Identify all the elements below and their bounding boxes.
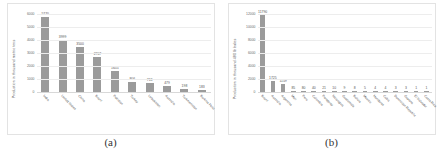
x-tick-label: Argentina [278,93,288,133]
x-tick-label: El Salvador [411,93,421,133]
bar-value-label: 80 [302,86,306,90]
chart-a-y-axis-title-text: Production in thousand metric tons [13,40,17,99]
x-tick-label: Brazil [258,93,268,133]
y-tick-label: 4000 [248,64,256,68]
chart-a-x-tick-labels: IndiaUnited StatesChinaBrazilPakistanTur… [37,93,211,133]
x-tick-label: India [37,93,54,133]
y-tick-label: 4000 [27,38,35,42]
chart-b-plot-area: 11790172511598580402110985443311 [258,14,432,92]
bar[interactable] [281,84,286,92]
y-tick-label: 8000 [248,38,256,42]
bar-value-label: 1 [425,86,427,90]
x-tick-label: Turkey [124,93,141,133]
bar[interactable] [111,71,119,93]
gridline [258,40,432,41]
bar-value-label: 85 [291,86,295,90]
x-tick-label-text: Mali [290,94,297,101]
x-tick-label: Australia [268,93,278,133]
bar-value-label: 40 [312,86,316,90]
caption-b: (b) [325,136,338,148]
x-tick-label-text: Burkina Faso [199,94,216,111]
x-tick-label: Pakistan [106,93,123,133]
x-tick-label-text: Peru [301,94,309,102]
figure-two-panel-bar-charts: Production in thousand metric tons 01000… [0,0,443,164]
x-tick-label: Dominican Republic [391,93,401,133]
x-tick-label-text: Australia [164,94,176,106]
x-tick-label: Peru [298,93,308,133]
gridline [258,53,432,54]
y-tick-label: 10000 [246,25,255,29]
bar-value-label: 183 [199,85,205,89]
y-tick-label: 0 [254,90,256,94]
x-tick-label: Mexico [360,93,370,133]
caption-a: (a) [104,136,116,148]
bar-value-label: 479 [164,81,170,85]
x-tick-label: Mali [288,93,298,133]
x-tick-label: Costa Rica [421,93,431,133]
bar-value-label: 3 [405,86,407,90]
bar[interactable] [41,17,49,92]
bar-value-label: 3 [395,86,397,90]
x-tick-label-text: Pakistan [112,94,124,106]
y-tick-label: 6000 [27,12,35,16]
bar[interactable] [93,57,101,92]
y-tick-label: 12000 [246,12,255,16]
x-tick-label: United States [54,93,71,133]
x-tick-label: Uzbekistan [141,93,158,133]
bar-value-label: 4 [384,86,386,90]
gridline [258,79,432,80]
bar-value-label: 198 [182,84,188,88]
bar-value-label: 3500 [76,42,84,46]
bar-value-label: 21 [322,86,326,90]
gridline [37,53,211,54]
chart-b-y-axis-title-text: Production in thousand 480 lb bales [234,39,238,100]
chart-b-x-tick-labels: BrazilAustraliaArgentinaMaliPeruColombia… [258,93,432,133]
panel-a: Production in thousand metric tons 01000… [0,0,221,164]
x-tick-label: Australia [158,93,175,133]
x-tick-label: Nicaragua [329,93,339,133]
x-tick-label: Bolivia [350,93,360,133]
y-tick-label: 5000 [27,25,35,29]
x-tick-label-text: Turkey [129,94,139,104]
gridline [258,14,432,15]
gridline [37,40,211,41]
y-tick-label: 1000 [27,77,35,81]
bar-value-label: 10 [332,86,336,90]
x-tick-label-text: Brazil [95,94,104,103]
chart-a-y-tick-labels: 0100020003000400050006000 [19,4,36,96]
gridline [37,79,211,80]
bar-value-label: 9 [344,86,346,90]
bar[interactable] [271,81,276,92]
gridline [37,27,211,28]
gridline [258,27,432,28]
bar-value-label: 8 [354,86,356,90]
bar-value-label: 1 [415,86,417,90]
y-tick-label: 6000 [248,51,256,55]
gridline [37,14,211,15]
y-tick-label: 0 [33,90,35,94]
x-tick-label: Turkmenistan [176,93,193,133]
chart-a-plot-area: 57703999350027071655806713479198183 [37,14,211,92]
x-tick-label: Paraguay [319,93,329,133]
x-tick-label: Cuba [380,93,390,133]
x-tick-label: Colombia [309,93,319,133]
x-tick-label-text: China [77,94,86,103]
gridline [37,66,211,67]
x-tick-label: Burkina Faso [193,93,210,133]
x-tick-label: Guyana [401,93,411,133]
y-tick-label: 2000 [27,64,35,68]
x-tick-label-text: India [42,94,50,102]
y-tick-label: 2000 [248,77,256,81]
x-tick-label: China [71,93,88,133]
bar-value-label: 3999 [59,35,67,39]
y-tick-label: 3000 [27,51,35,55]
x-tick-label: Brazil [89,93,106,133]
bar[interactable] [146,83,154,92]
bar[interactable] [128,82,136,92]
x-tick-label-text: Costa Rica [424,94,438,108]
chart-b-y-tick-labels: 020004000600080001000012000 [240,4,257,96]
panel-b: Production in thousand 480 lb bales 0200… [221,0,442,164]
bar-value-label: 4 [374,86,376,90]
bar-value-label: 5 [364,86,366,90]
chart-b-container: Production in thousand 480 lb bales 0200… [228,3,436,135]
